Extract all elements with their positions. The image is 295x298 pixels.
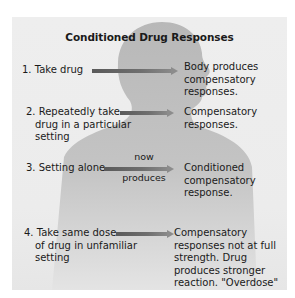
- step-2-cause-line: setting: [26, 131, 131, 144]
- step-4-effect-line: more likely.: [174, 290, 278, 291]
- step-3-cause-line: 3. Setting alone: [26, 162, 105, 175]
- step-4-effect-line: reaction. "Overdose": [174, 277, 278, 290]
- step-3-effect-line: response.: [184, 187, 256, 200]
- step-2-effect-line: responses.: [184, 119, 257, 132]
- arrow-label-above: now: [121, 151, 167, 164]
- right-arrow-icon: [116, 231, 174, 237]
- step-3-cause: 3. Setting alone: [26, 162, 105, 175]
- step-4-effect-line: strength. Drug: [174, 252, 278, 265]
- step-1-effect-line: Body produces: [184, 61, 258, 74]
- step-4-cause-line: of drug in unfamiliar: [24, 240, 137, 253]
- step-4-cause-line: setting: [24, 252, 137, 265]
- step-2-effect-line: Compensatory: [184, 106, 257, 119]
- arrow-label-below: produces: [109, 172, 179, 185]
- step-3-effect: Conditioned compensatory response.: [184, 162, 256, 200]
- step-2-cause-line: drug in a particular: [26, 119, 131, 132]
- step-3-effect-line: Conditioned: [184, 162, 256, 175]
- step-2-effect: Compensatory responses.: [184, 106, 257, 131]
- step-2-cause-line: 2. Repeatedly take: [26, 106, 131, 119]
- step-4-effect-line: produces stronger: [174, 265, 278, 278]
- step-1-cause-line: 1. Take drug: [22, 64, 83, 77]
- step-3-effect-line: compensatory: [184, 175, 256, 188]
- step-1-effect: Body produces compensatory responses.: [184, 61, 258, 99]
- step-2-cause: 2. Repeatedly take drug in a particular …: [26, 106, 131, 144]
- diagram-panel: Conditioned Drug Responses 1. Take drug …: [12, 17, 287, 290]
- step-1-effect-line: responses.: [184, 86, 258, 99]
- diagram-title: Conditioned Drug Responses: [12, 31, 287, 43]
- right-arrow-icon: [92, 68, 178, 74]
- step-4-effect-line: Compensatory: [174, 227, 278, 240]
- step-1-cause: 1. Take drug: [22, 64, 83, 77]
- step-4-effect-line: responses not at full: [174, 240, 278, 253]
- step-1-effect-line: compensatory: [184, 74, 258, 87]
- step-4-effect: Compensatory responses not at full stren…: [174, 227, 278, 290]
- right-arrow-icon: [120, 110, 174, 116]
